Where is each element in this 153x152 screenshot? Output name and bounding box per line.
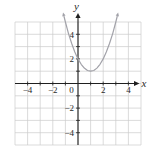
y-tick-label: 2: [70, 54, 75, 64]
y-tick-label: −2: [64, 103, 74, 113]
graph-figure: −4−202442−2−4 x y: [0, 0, 153, 152]
y-tick-label: −4: [64, 128, 74, 138]
y-axis-arrow: [75, 13, 80, 18]
x-axis-label: x: [141, 77, 147, 89]
x-tick-label: 4: [126, 85, 131, 95]
x-axis-arrow: [134, 81, 140, 86]
axes: [15, 13, 140, 145]
parabola-right-arrow: [116, 13, 119, 17]
y-axis-label: y: [73, 0, 79, 12]
x-tick-label: 2: [101, 85, 106, 95]
x-tick-label: −2: [48, 85, 58, 95]
x-tick-label: 0: [69, 85, 74, 95]
parabola-left-arrow: [62, 13, 65, 17]
coordinate-plane: −4−202442−2−4 x y: [0, 0, 153, 152]
x-tick-label: −4: [23, 85, 33, 95]
